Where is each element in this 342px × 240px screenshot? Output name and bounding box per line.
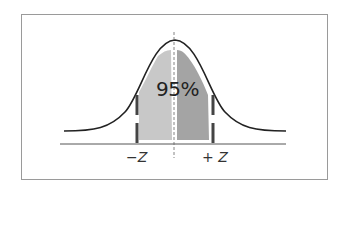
confidence-label: 95% [156,77,199,101]
plus-z-label: + Z [202,149,228,165]
minus-z-label: −Z [126,149,147,165]
